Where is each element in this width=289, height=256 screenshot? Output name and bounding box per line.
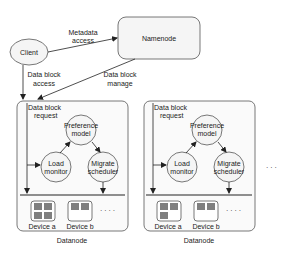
svg-text:scheduler: scheduler [214,168,245,175]
load-monitor-node: Load monitor [167,152,197,182]
device-b: Device b [192,201,219,230]
datanode-2: Data block request Preference model Load… [144,101,255,244]
more-devices: · · · · [100,207,115,214]
migrate-scheduler-node: Migrate scheduler [88,152,119,182]
datanode-label: Datanode [57,237,87,244]
namenode-node: Namenode [118,17,200,59]
svg-text:model: model [71,130,91,137]
data-block-manage-label-1: Data block [103,71,137,78]
svg-text:· · · ·: · · · · [226,207,241,214]
svg-text:scheduler: scheduler [88,168,119,175]
migrate-scheduler-node: Migrate scheduler [214,152,245,182]
svg-text:request: request [160,112,183,120]
svg-text:monitor: monitor [44,168,68,175]
svg-text:Device a: Device a [154,223,181,230]
load-monitor-node: Load monitor [41,152,71,182]
svg-text:Migrate: Migrate [217,160,240,168]
svg-text:Preference: Preference [64,122,98,129]
svg-text:Load: Load [174,160,190,167]
namenode-label: Namenode [142,35,176,42]
svg-text:model: model [197,130,217,137]
svg-text:Datanode: Datanode [184,237,214,244]
device-b: Device b [66,201,93,230]
metadata-access-label-2: access [72,37,94,44]
request-label-1: Data block [28,104,62,111]
svg-text:Device a: Device a [28,223,55,230]
request-label-2: request [34,112,57,120]
data-block-manage-label-2: manage [107,80,132,88]
svg-text:Device b: Device b [66,223,93,230]
data-block-access-label-1: Data block [27,71,61,78]
svg-text:Data block: Data block [154,104,188,111]
architecture-diagram: Client Namenode Metadata access Data blo… [0,0,289,256]
svg-text:Load: Load [48,160,64,167]
svg-text:Device b: Device b [192,223,219,230]
data-block-access-label-2: access [33,80,55,87]
datanode-1: Data block request Preference model Load… [17,101,128,244]
more-datanodes: · · · [266,164,277,171]
client-label: Client [20,49,38,56]
device-a: Device a [154,201,181,230]
data-block-manage-arrow [38,59,135,99]
device-a: Device a [28,201,55,230]
metadata-access-label-1: Metadata [68,29,97,36]
svg-text:Preference: Preference [190,122,224,129]
client-node: Client [10,39,48,65]
svg-text:monitor: monitor [170,168,194,175]
svg-text:Migrate: Migrate [91,160,114,168]
